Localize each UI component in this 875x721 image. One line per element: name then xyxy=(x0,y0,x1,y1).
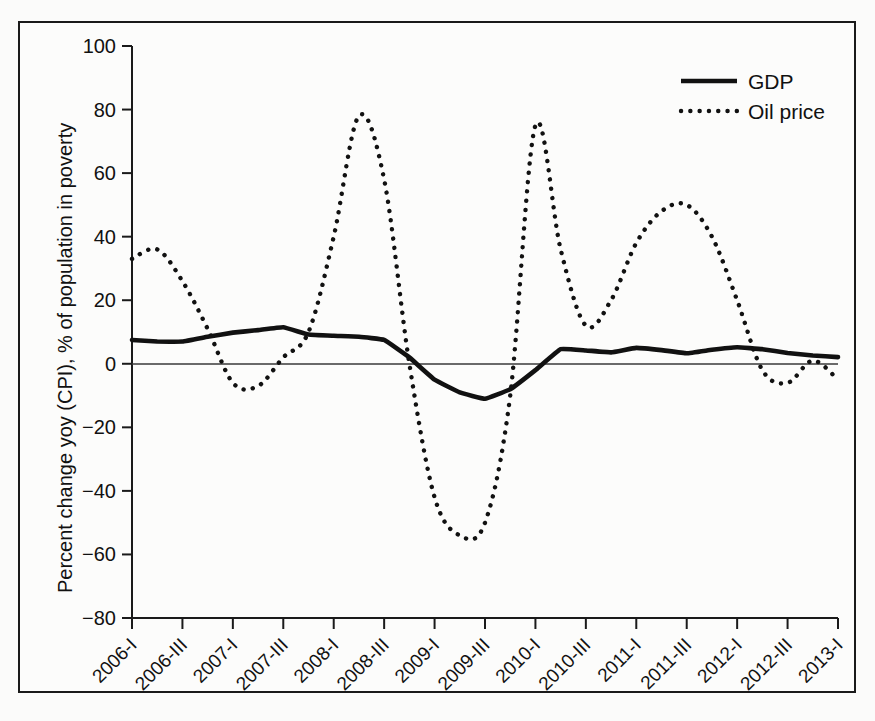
x-tick-label: 2011-III xyxy=(636,634,695,693)
x-axis: 2006-I2006-III2007-I2007-III2008-I2008-I… xyxy=(88,618,847,694)
x-tick-labels: 2006-I2006-III2007-I2007-III2008-I2008-I… xyxy=(88,634,847,694)
y-tick-label: −20 xyxy=(82,416,116,438)
series-line-gdp xyxy=(132,327,838,399)
legend-label-oil-price: Oil price xyxy=(748,100,825,123)
y-tick-labels: 100806040200−20−40−60−80 xyxy=(82,35,116,629)
y-tick-label: 100 xyxy=(83,35,116,57)
y-tick-label: 40 xyxy=(94,226,116,248)
y-axis-title-text: Percent change yoy (CPI), % of populatio… xyxy=(54,123,76,593)
x-tick-label: 2013-I xyxy=(794,634,847,687)
x-tick-label: 2007-III xyxy=(232,634,292,694)
y-tick-label: −40 xyxy=(82,480,116,502)
y-tick-marks xyxy=(122,46,132,618)
y-axis: 100806040200−20−40−60−80 xyxy=(82,35,132,629)
legend-label-gdp: GDP xyxy=(748,70,794,93)
series-line-oil xyxy=(132,114,838,539)
chart-legend: GDP Oil price xyxy=(681,70,825,123)
y-tick-label: 60 xyxy=(94,162,116,184)
x-tick-marks xyxy=(132,618,838,629)
y-tick-label: −60 xyxy=(82,543,116,565)
y-tick-label: −80 xyxy=(82,607,116,629)
x-tick-label: 2012-III xyxy=(736,634,796,694)
y-tick-label: 80 xyxy=(94,99,116,121)
y-axis-title: Percent change yoy (CPI), % of populatio… xyxy=(54,123,76,593)
chart-figure: Percent change yoy (CPI), % of populatio… xyxy=(0,0,875,721)
x-tick-label: 2010-III xyxy=(534,634,594,694)
y-tick-label: 0 xyxy=(105,353,116,375)
y-tick-label: 20 xyxy=(94,289,116,311)
x-tick-label: 2008-III xyxy=(333,634,393,694)
x-tick-label: 2009-III xyxy=(433,634,493,694)
chart-canvas: Percent change yoy (CPI), % of populatio… xyxy=(0,0,875,721)
x-tick-label: 2006-III xyxy=(131,634,191,694)
data-series-group xyxy=(132,114,838,539)
